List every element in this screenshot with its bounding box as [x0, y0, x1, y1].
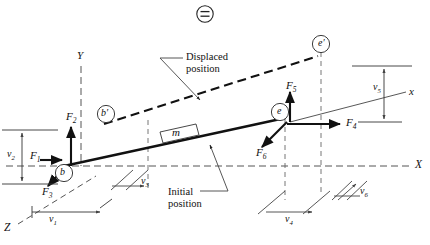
annotation-initial-line2: position: [168, 198, 202, 210]
force-label-F2: F2: [66, 111, 76, 125]
force-label-F3: F3: [42, 186, 52, 200]
circled-equals-icon: [197, 6, 213, 22]
point-label-b-prime: b′: [101, 108, 108, 118]
force-F6-arrow: [262, 122, 287, 147]
leader-initial-position: [200, 145, 228, 191]
axis-label-Y: Y: [77, 50, 83, 61]
force-label-F1: F1: [30, 150, 40, 164]
dimension-label-v3: v3: [141, 176, 149, 189]
dimension-label-v2: v2: [7, 149, 15, 162]
axis-label-X: X: [415, 159, 422, 171]
dimension-v4: [258, 191, 330, 214]
annotation-initial-line1: Initial: [168, 186, 202, 198]
diagram-svg: [0, 0, 430, 245]
dimension-label-v1: v1: [49, 214, 57, 227]
dimension-label-v4: v4: [285, 214, 293, 227]
dimension-label-v5: v5: [373, 82, 381, 95]
dimension-v5: [352, 66, 412, 122]
point-label-e-prime: e′: [318, 38, 325, 48]
mass-label: m: [172, 127, 180, 138]
axis-label-x-local: x: [409, 86, 414, 97]
annotation-displaced-line1: Displaced: [186, 51, 228, 63]
force-label-F5: F5: [286, 80, 296, 94]
force-label-F4: F4: [346, 117, 356, 131]
point-label-b: b: [60, 167, 65, 177]
annotation-displaced-position: Displaced position: [186, 51, 228, 75]
figure-canvas: Y X Z x b b′ e e′ F1 F2 F3 F4 F5 F6 v1 v…: [0, 0, 430, 245]
force-label-F6: F6: [256, 147, 266, 161]
axis-label-Z: Z: [4, 222, 10, 234]
annotation-initial-position: Initial position: [168, 186, 202, 210]
point-label-e: e: [277, 106, 281, 116]
annotation-displaced-line2: position: [186, 63, 228, 75]
axis-Z: [18, 176, 96, 224]
dimension-label-v6: v6: [360, 186, 368, 199]
